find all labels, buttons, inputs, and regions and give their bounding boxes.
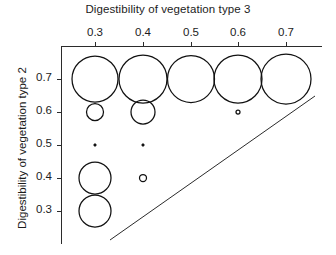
bubble-0.3-0.6 bbox=[87, 104, 104, 121]
bubble-series bbox=[72, 54, 311, 227]
bubble-0.6-0.7 bbox=[214, 55, 262, 103]
x-axis-ticks bbox=[95, 42, 286, 46]
y-axis-ticks bbox=[57, 79, 61, 211]
bubble-0.4-0.4 bbox=[140, 175, 147, 182]
reference-line bbox=[110, 96, 315, 240]
bubble-0.5-0.7 bbox=[168, 56, 215, 103]
bubble-0.3-0.4 bbox=[79, 162, 111, 194]
bubble-0.4-0.5 bbox=[142, 144, 144, 146]
bubble-0.3-0.7 bbox=[72, 56, 118, 102]
bubble-0.3-0.3 bbox=[79, 195, 111, 227]
bubble-0.3-0.5 bbox=[94, 144, 96, 146]
bubble-0.6-0.6 bbox=[236, 110, 240, 114]
bubble-0.4-0.7 bbox=[119, 55, 167, 103]
bubble-chart-figure: Digestibility of vegetation type 3 Diges… bbox=[0, 0, 336, 255]
plot-area bbox=[0, 0, 336, 255]
bubble-0.7-0.7 bbox=[261, 54, 311, 104]
